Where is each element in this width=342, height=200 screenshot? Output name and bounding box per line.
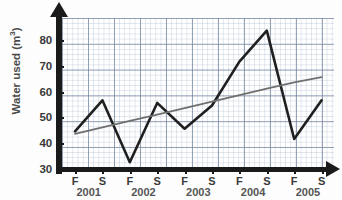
y-axis-tick-label: 80: [22, 34, 52, 46]
y-axis-title: Water used (m3): [8, 12, 22, 130]
x-axis-year-label: 2001: [67, 186, 111, 198]
y-axis-arrow-icon: [50, 2, 68, 17]
y-axis-tick: [57, 143, 64, 145]
y-axis-line: [56, 14, 62, 174]
x-axis-year-label: 2003: [176, 186, 220, 198]
y-axis-tick-label: 60: [22, 86, 52, 98]
y-axis-title-superscript: 3: [8, 31, 17, 35]
y-axis-tick: [57, 92, 64, 94]
plot-area: [62, 18, 334, 170]
y-axis-title-text: Water used (m: [10, 36, 22, 115]
y-axis-tick-label: 50: [22, 111, 52, 123]
x-axis-year-label: 2004: [231, 186, 275, 198]
y-axis-tick-label: 70: [22, 60, 52, 72]
x-axis-year-label: 2005: [286, 186, 330, 198]
x-axis-tick: [322, 168, 324, 174]
x-axis-tick: [75, 168, 77, 174]
series-layer: [62, 18, 334, 170]
y-axis-tick-label: 30: [22, 163, 52, 175]
y-axis-tick: [57, 117, 64, 119]
x-axis-tick: [212, 168, 214, 174]
y-axis-tick: [57, 66, 64, 68]
y-axis-tick-label: 40: [22, 137, 52, 149]
x-axis-tick: [130, 168, 132, 174]
data-line: [75, 31, 322, 163]
y-axis-tick: [57, 169, 64, 171]
y-axis-tick: [57, 40, 64, 42]
x-axis-tick: [239, 168, 241, 174]
x-axis-tick: [157, 168, 159, 174]
x-axis-tick: [102, 168, 104, 174]
x-axis-tick: [267, 168, 269, 174]
y-axis-title-suffix: ): [10, 27, 22, 31]
x-axis-tick: [294, 168, 296, 174]
x-axis-line: [56, 167, 328, 172]
line-chart: Water used (m3) 304050607080 FSFSFSFSFS2…: [0, 0, 342, 200]
x-axis-year-label: 2002: [122, 186, 166, 198]
x-axis-tick: [185, 168, 187, 174]
